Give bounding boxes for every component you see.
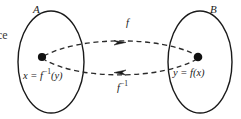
set-a-ellipse [18, 11, 84, 113]
set-a-label: A [33, 4, 40, 15]
point-x-dot [38, 53, 46, 61]
point-x-label-argument: (y) [51, 70, 63, 81]
function-inverse-diagram: ce A B x = f−1(y) y = f(x) f f−1 [0, 0, 241, 119]
forward-map-label: f [126, 18, 129, 29]
set-b-label: B [210, 4, 217, 15]
point-x-label-base: x = f [23, 70, 43, 81]
forward-map-label-base: f [126, 17, 129, 28]
point-y-label: y = f(x) [173, 68, 205, 79]
inverse-map-label-exponent: −1 [120, 79, 128, 88]
diagram-canvas [0, 0, 241, 119]
inverse-map-label: f−1 [117, 80, 128, 93]
point-y-dot [194, 53, 203, 62]
set-b-ellipse [168, 11, 232, 113]
point-x-label: x = f−1(y) [23, 68, 63, 81]
point-x-label-exponent: −1 [43, 67, 51, 76]
